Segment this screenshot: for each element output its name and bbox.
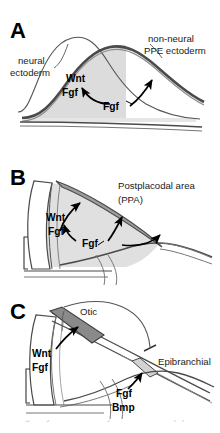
fgf-label-leader [126, 101, 132, 104]
fgf-label: Fgf [62, 87, 78, 98]
neural-plate-region-c [30, 315, 56, 405]
left-bracket [24, 237, 28, 269]
panel-b-diagram: B [0, 145, 220, 285]
bmp-label-c: Bmp [112, 402, 135, 413]
epibranchial-placode-block [132, 358, 158, 377]
panel-a: A neural ectoder [0, 0, 220, 145]
wedge-inner-contour-c2 [60, 319, 65, 405]
neural-ectoderm-label-line2: ectoderm [10, 67, 50, 78]
epibranchial-label: Epibranchial [158, 356, 211, 367]
ventral-sweep-c [64, 371, 214, 401]
ppa-label-line2: (PPA) [118, 194, 143, 205]
panel-letter-b: B [10, 165, 26, 190]
left-bracket-c [26, 369, 30, 403]
non-neural-label-line1: non-neural [148, 33, 194, 44]
panel-c-diagram: C [0, 285, 220, 420]
fgf-arrow-label: Fgf [103, 101, 119, 112]
figure-panel-group: A neural ectoder [0, 0, 220, 433]
fgf-label-c: Fgf [32, 362, 48, 373]
clipped-caption-text: a single layer of the embryonic ectoderm… [6, 420, 216, 423]
tail-line-lower [160, 249, 212, 264]
fgf-label-b: Fgf [48, 226, 64, 237]
wnt-fgf-arrow-otic [56, 327, 78, 349]
wnt-label-c: Wnt [32, 348, 52, 359]
ppa-label-line1: Postplacodal area [118, 180, 195, 191]
neural-ectoderm-label-line1: neural [18, 55, 45, 66]
panel-letter-a: A [10, 18, 26, 43]
clipped-caption-strip: a single layer of the embryonic ectoderm… [0, 420, 220, 433]
panel-b: B [0, 145, 220, 285]
fgf-arrow-right [130, 80, 152, 106]
basal-lamina-lower [20, 126, 202, 131]
wnt-label: Wnt [66, 73, 86, 84]
panel-a-diagram: A neural ectoder [0, 0, 220, 145]
wnt-label-b: Wnt [46, 212, 66, 223]
fgf-label-c2: Fgf [116, 388, 132, 399]
panel-c: C [0, 285, 220, 420]
fgf-arrow-label-b: Fgf [82, 238, 98, 249]
ppe-ectoderm-label-line2: PPE ectoderm [144, 45, 206, 56]
otic-label: Otic [80, 306, 97, 317]
panel-letter-c: C [10, 299, 26, 324]
